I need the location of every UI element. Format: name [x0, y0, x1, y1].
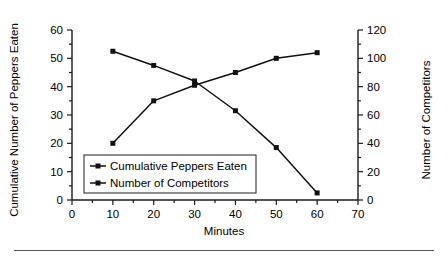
left-axis-tick-label: 30	[50, 109, 63, 121]
right-axis-tick-label: 120	[367, 24, 386, 36]
data-point-marker	[192, 79, 197, 84]
data-point-marker	[274, 145, 279, 150]
data-point-marker	[315, 190, 320, 195]
legend-label-2: Number of Competitors	[110, 177, 229, 189]
legend-label-1: Cumulative Peppers Eaten	[110, 160, 247, 172]
left-axis-tick-label: 20	[50, 137, 63, 149]
right-axis-tick-label: 0	[367, 194, 373, 206]
secondary-y-axis-title: Number of Competitors	[420, 60, 432, 179]
y-axis-title: Cumulative Number of Peppers Eaten	[8, 23, 20, 217]
left-axis-tick-label: 40	[50, 81, 63, 93]
data-point-marker	[151, 98, 156, 103]
right-axis-tick-label: 60	[367, 109, 380, 121]
chart-background	[0, 0, 448, 259]
x-axis-tick-label: 10	[106, 208, 119, 220]
left-axis-tick-label: 60	[50, 24, 63, 36]
x-axis-tick-label: 60	[311, 208, 324, 220]
data-point-marker	[233, 70, 238, 75]
data-point-marker	[274, 56, 279, 61]
line-chart: 0102030405060 020406080100120 0102030405…	[0, 0, 448, 259]
x-axis-tick-label: 50	[270, 208, 283, 220]
x-axis-title: Minutes	[204, 225, 245, 237]
legend-marker-2	[96, 181, 101, 186]
left-axis-tick-label: 10	[50, 166, 63, 178]
x-axis-tick-label: 0	[69, 208, 75, 220]
x-axis-tick-label: 30	[188, 208, 201, 220]
chart-figure: 0102030405060 020406080100120 0102030405…	[0, 0, 448, 259]
data-point-marker	[315, 50, 320, 55]
chart-legend: Cumulative Peppers EatenNumber of Compet…	[84, 155, 256, 193]
x-axis-tick-label: 40	[229, 208, 242, 220]
right-axis-tick-label: 20	[367, 166, 380, 178]
right-axis-tick-label: 40	[367, 137, 380, 149]
x-axis-tick-label: 20	[147, 208, 160, 220]
right-axis-tick-label: 100	[367, 52, 386, 64]
left-axis-tick-label: 0	[57, 194, 63, 206]
data-point-marker	[110, 141, 115, 146]
legend-marker-1	[96, 164, 101, 169]
left-axis-tick-label: 50	[50, 52, 63, 64]
x-axis-tick-label: 70	[352, 208, 365, 220]
data-point-marker	[233, 108, 238, 113]
data-point-marker	[110, 49, 115, 54]
right-axis-tick-label: 80	[367, 81, 380, 93]
data-point-marker	[151, 63, 156, 68]
